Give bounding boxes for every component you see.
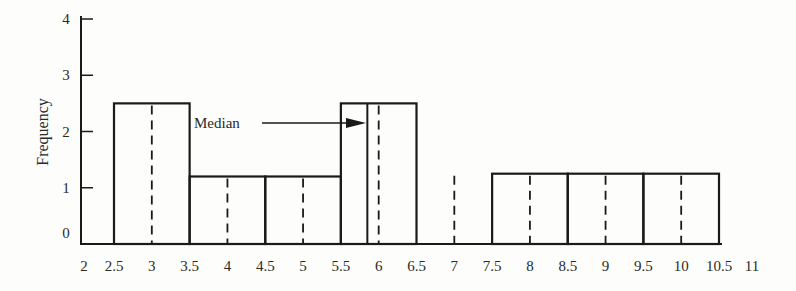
x-tick-label: 3.5: [180, 258, 199, 274]
x-tick-label: 6: [375, 258, 383, 274]
x-tick-label: 8.5: [558, 258, 577, 274]
y-tick-label: 1: [62, 180, 70, 196]
x-tick-label: 7: [451, 258, 459, 274]
x-tick-label: 9: [602, 258, 610, 274]
y-tick-label: 0: [62, 225, 70, 241]
x-tick-label: 6.5: [407, 258, 426, 274]
x-tick-label: 11: [745, 258, 759, 274]
x-tick-label: 2.5: [105, 258, 124, 274]
x-tick-label: 5.5: [332, 258, 351, 274]
x-tick-label: 2: [80, 258, 88, 274]
median-label: Median: [194, 115, 240, 131]
y-ticks: 01234: [62, 11, 93, 241]
x-tick-label: 3: [148, 258, 156, 274]
x-tick-label: 8: [526, 258, 534, 274]
y-axis-title: Frequency: [34, 98, 52, 166]
x-tick-label: 4.5: [256, 258, 275, 274]
x-tick-label: 10: [674, 258, 689, 274]
x-tick-label: 5: [299, 258, 307, 274]
x-tick-label: 9.5: [634, 258, 653, 274]
x-ticks: 22.533.544.555.566.577.588.599.51010.511: [80, 258, 759, 274]
y-tick-label: 3: [62, 67, 70, 83]
x-tick-label: 10.5: [706, 258, 732, 274]
axes: [80, 16, 722, 244]
y-tick-label: 2: [62, 124, 70, 140]
x-tick-label: 7.5: [483, 258, 502, 274]
x-tick-label: 4: [224, 258, 232, 274]
median-arrow-head-icon: [346, 118, 366, 128]
histogram-chart: 01234 22.533.544.555.566.577.588.599.510…: [0, 0, 796, 291]
y-tick-label: 4: [62, 11, 70, 27]
